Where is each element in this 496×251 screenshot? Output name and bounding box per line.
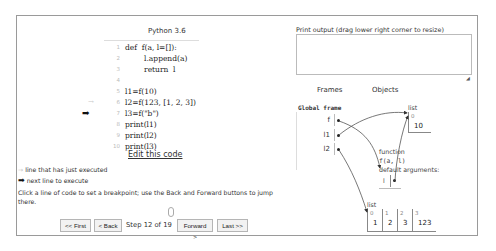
pointer-arrows	[0, 0, 496, 251]
